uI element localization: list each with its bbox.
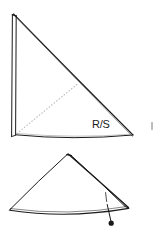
upper-triangle-hypotenuse-inner	[16, 17, 133, 137]
upper-triangle-left-edge-inner	[16, 16, 17, 135]
leader-line-lower	[107, 205, 111, 222]
diagram-canvas: R/S	[0, 0, 167, 229]
lower-triangle-left-edge	[10, 154, 68, 209]
upper-triangle-hypotenuse	[14, 14, 134, 135]
upper-triangle-left-edge-outer	[12, 15, 13, 137]
lower-triangle-group	[10, 154, 129, 226]
upper-triangle-group: R/S	[11, 14, 152, 138]
right-side-label: R/S	[92, 118, 110, 130]
leader-line-upper	[106, 193, 107, 202]
lower-triangle-apex-cap	[67, 155, 72, 156]
diagram-svg: R/S	[0, 0, 167, 229]
lower-triangle-right-edge-inner	[71, 155, 125, 206]
leader-dot	[109, 221, 114, 226]
lower-triangle-left-cap	[10, 208, 12, 210]
lower-triangle-base-edge	[10, 208, 129, 214]
dotted-fold-line	[17, 84, 78, 134]
